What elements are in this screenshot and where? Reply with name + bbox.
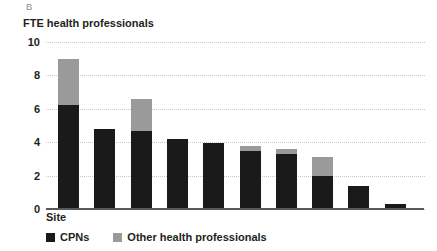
plot-area [46, 42, 425, 209]
y-tick-label-6: 6 [18, 104, 40, 115]
legend-swatch-other [113, 233, 122, 242]
bar-site-2[interactable] [94, 42, 115, 209]
y-axis-tick-labels: 1086420 [14, 42, 40, 209]
chart-legend: CPNsOther health professionals [46, 231, 267, 243]
y-tick-label-0: 0 [18, 204, 40, 215]
panel-label: B [26, 1, 33, 12]
bar-segment-cpns-2 [94, 129, 115, 209]
bar-site-8[interactable] [312, 42, 333, 209]
legend-label-0: CPNs [60, 231, 89, 243]
y-tick-label-4: 4 [18, 137, 40, 148]
bar-segment-cpns-3 [131, 131, 152, 209]
bar-site-7[interactable] [276, 42, 297, 209]
bar-site-4[interactable] [167, 42, 188, 209]
legend-label-1: Other health professionals [127, 231, 266, 243]
bar-segment-cpns-6 [240, 151, 261, 209]
y-tick-label-2: 2 [18, 171, 40, 182]
bar-segment-cpns-1 [58, 105, 79, 209]
bar-segment-cpns-4 [167, 139, 188, 209]
x-axis-title: Site [46, 211, 66, 224]
bar-segment-other-8 [312, 157, 333, 175]
y-axis-title: FTE health professionals [23, 17, 154, 30]
bar-site-3[interactable] [131, 42, 152, 209]
legend-item-0[interactable]: CPNs [46, 231, 89, 243]
legend-swatch-cpns [46, 233, 55, 242]
y-tick-label-8: 8 [18, 70, 40, 81]
figure-panel-b: B FTE health professionals 1086420 Site … [0, 0, 437, 251]
y-tick-label-10: 10 [18, 37, 40, 48]
bar-segment-other-1 [58, 59, 79, 106]
bar-site-9[interactable] [348, 42, 369, 209]
bar-segment-cpns-8 [312, 176, 333, 209]
bar-site-6[interactable] [240, 42, 261, 209]
bar-segment-cpns-5 [203, 143, 224, 209]
bar-site-5[interactable] [203, 42, 224, 209]
bar-site-10[interactable] [385, 42, 406, 209]
bar-segment-other-6 [240, 146, 261, 151]
legend-item-1[interactable]: Other health professionals [113, 231, 266, 243]
bar-segment-other-7 [276, 149, 297, 154]
x-axis-line [46, 208, 424, 210]
bar-site-1[interactable] [58, 42, 79, 209]
bar-segment-cpns-7 [276, 154, 297, 209]
bar-segment-cpns-9 [348, 186, 369, 209]
bar-segment-other-3 [131, 99, 152, 132]
